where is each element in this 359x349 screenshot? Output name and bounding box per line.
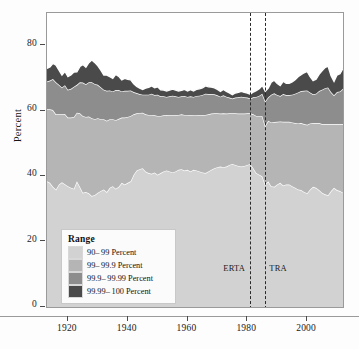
- legend-swatch-icon: [68, 246, 83, 259]
- legend-item-label: 99.99– 100 Percent: [87, 287, 151, 296]
- legend-swatch-icon: [68, 259, 83, 272]
- y-tick-label: 40: [27, 168, 37, 178]
- legend-item: 99.99– 100 Percent: [68, 285, 170, 298]
- x-tick-label: 1960: [169, 323, 205, 333]
- y-tick-mark: [40, 110, 45, 111]
- event-line-erta: [250, 13, 251, 308]
- event-label-tra: TRA: [269, 263, 287, 273]
- legend: Range 90– 99 Percent99– 99.9 Percent99.9…: [61, 229, 176, 304]
- y-tick-mark: [40, 240, 45, 241]
- legend-item-label: 90– 99 Percent: [87, 248, 136, 257]
- y-tick-mark: [40, 306, 45, 307]
- x-tick-mark: [246, 316, 247, 321]
- legend-title: Range: [68, 234, 170, 244]
- y-tick-mark: [40, 44, 45, 45]
- y-tick-mark: [40, 175, 45, 176]
- event-label-erta: ERTA: [223, 263, 245, 273]
- x-tick-label: 1940: [109, 323, 145, 333]
- y-tick-label: 0: [32, 299, 37, 309]
- y-axis-title: Percent: [12, 81, 23, 171]
- x-tick-label: 2000: [288, 323, 324, 333]
- x-tick-label: 1980: [228, 323, 264, 333]
- legend-swatch-icon: [68, 272, 83, 285]
- x-tick-mark: [67, 316, 68, 321]
- y-tick-label: 60: [27, 103, 37, 113]
- legend-item-label: 99– 99.9 Percent: [87, 261, 143, 270]
- legend-item: 99.9– 99.99 Percent: [68, 272, 170, 285]
- legend-item-label: 99.9– 99.99 Percent: [87, 274, 153, 283]
- legend-item: 99– 99.9 Percent: [68, 259, 170, 272]
- legend-swatch-icon: [68, 285, 83, 298]
- y-tick-label: 20: [27, 234, 37, 244]
- x-tick-mark: [187, 316, 188, 321]
- x-tick-mark: [306, 316, 307, 321]
- legend-item: 90– 99 Percent: [68, 246, 170, 259]
- y-tick-label: 80: [27, 38, 37, 48]
- x-tick-mark: [127, 316, 128, 321]
- plot-area: ERTATRA Range 90– 99 Percent99– 99.9 Per…: [46, 12, 344, 308]
- legend-items: 90– 99 Percent99– 99.9 Percent99.9– 99.9…: [68, 246, 170, 298]
- chart-root: Percent 020406080 ERTATRA Range 90– 99 P…: [0, 0, 359, 349]
- event-line-tra: [265, 13, 266, 308]
- x-tick-label: 1920: [49, 323, 85, 333]
